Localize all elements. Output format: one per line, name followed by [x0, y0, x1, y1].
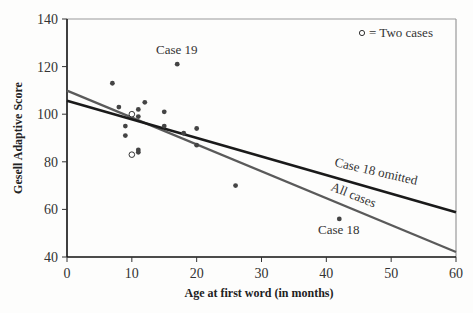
data-point: [181, 131, 186, 136]
data-point: [116, 105, 121, 110]
x-tick-label: 30: [255, 266, 269, 281]
data-point: [175, 62, 180, 67]
data-points: [110, 62, 342, 222]
x-tick-label: 50: [384, 266, 398, 281]
data-point: [136, 107, 141, 112]
open-circle-point: [129, 111, 135, 117]
scatter-chart: 0102030405060406080100120140 Age at firs…: [0, 0, 473, 313]
y-tick-label: 140: [37, 12, 58, 27]
data-point: [162, 109, 167, 114]
x-tick-label: 20: [190, 266, 204, 281]
data-point: [136, 114, 141, 119]
y-axis-label: Gesell Adaptive Score: [11, 81, 25, 193]
x-tick-label: 60: [449, 266, 463, 281]
data-point: [123, 133, 128, 138]
legend-text: = Two cases: [369, 25, 433, 40]
data-point: [162, 124, 167, 129]
x-axis-label: Age at first word (in months): [185, 286, 334, 300]
annotation-case-19: Case 19: [156, 42, 198, 57]
data-point: [194, 126, 199, 131]
x-tick-label: 10: [125, 266, 139, 281]
data-point: [233, 183, 238, 188]
open-circle-icon: [359, 30, 364, 35]
x-tick-label: 40: [319, 266, 333, 281]
x-tick-label: 0: [64, 266, 71, 281]
data-point: [142, 100, 147, 105]
y-tick-label: 80: [44, 155, 58, 170]
data-point: [337, 217, 342, 222]
annotation-case-18: Case 18: [318, 222, 360, 237]
y-tick-label: 120: [37, 60, 58, 75]
y-tick-label: 40: [44, 250, 58, 265]
y-tick-label: 100: [37, 107, 58, 122]
data-point: [194, 143, 199, 148]
open-circle-point: [129, 152, 135, 158]
legend: = Two cases: [359, 25, 433, 40]
y-tick-label: 60: [44, 202, 58, 217]
data-point: [136, 150, 141, 155]
axis-ticks: 0102030405060406080100120140: [37, 12, 463, 281]
regression-line-case-18-omitted: [67, 101, 456, 212]
data-point: [110, 81, 115, 86]
data-point: [123, 124, 128, 129]
